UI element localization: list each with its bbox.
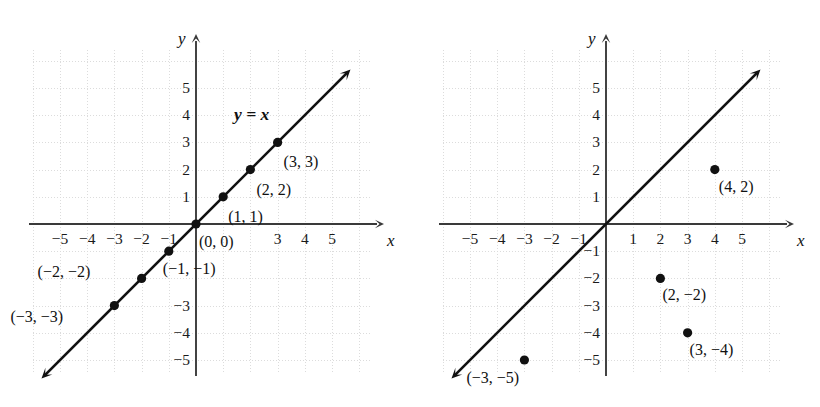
y-axis-tick-label: −5: [174, 352, 191, 368]
y-axis-tick-label: −4: [174, 325, 191, 341]
x-axis-tick-label: −5: [462, 231, 479, 247]
y-axis-tick-label: 4: [182, 107, 190, 123]
x-axis-tick-label: 5: [328, 231, 336, 247]
data-point: [710, 165, 719, 174]
x-axis-tick-label: −2: [133, 231, 150, 247]
x-axis-tick-label: −4: [79, 231, 96, 247]
y-axis-tick-label: 4: [592, 107, 600, 123]
point-annotation: (−3, −5): [466, 370, 519, 386]
axes-and-data-layer: [410, 0, 820, 407]
point-annotation: (3, −4): [690, 342, 734, 358]
point-annotation: (1, 1): [228, 209, 263, 225]
data-point: [191, 219, 200, 228]
x-axis-name: x: [387, 232, 395, 249]
y-axis-tick-label: −3: [584, 298, 601, 314]
x-axis-tick-label: 1: [629, 231, 637, 247]
y-axis-name: y: [588, 30, 596, 47]
x-axis-tick-label: −2: [543, 231, 560, 247]
y-axis-tick-label: 1: [592, 189, 600, 205]
data-point: [273, 138, 282, 147]
x-axis-tick-label: 2: [657, 231, 665, 247]
y-axis-tick-label: −2: [584, 271, 601, 287]
data-point: [164, 247, 173, 256]
figure-root: −5−4−3−2−134554321−3−4−5xy(−3, −3)(−2, −…: [0, 0, 820, 407]
x-axis-name: x: [797, 232, 805, 249]
graph-panel-right: −5−4−3−2−11234554321−1−2−3−4−5xy(4, 2)(2…: [410, 0, 820, 407]
y-axis-tick-label: −5: [584, 352, 601, 368]
y-axis-tick-label: 5: [592, 80, 600, 96]
point-annotation: (0, 0): [199, 234, 234, 250]
point-annotation: (−3, −3): [10, 309, 63, 325]
y-axis-tick-label: 2: [592, 162, 600, 178]
y-axis-name: y: [178, 30, 186, 47]
coordinate-plane-right: −5−4−3−2−11234554321−1−2−3−4−5xy(4, 2)(2…: [410, 0, 820, 407]
coordinate-plane-left: −5−4−3−2−134554321−3−4−5xy(−3, −3)(−2, −…: [0, 0, 410, 407]
point-annotation: (2, 2): [256, 182, 291, 198]
data-point: [137, 274, 146, 283]
x-axis-tick-label: −3: [516, 231, 533, 247]
y-axis-tick-label: 5: [182, 80, 190, 96]
y-axis-tick-label: 3: [182, 135, 190, 151]
graph-panel-left: −5−4−3−2−134554321−3−4−5xy(−3, −3)(−2, −…: [0, 0, 410, 407]
point-annotation: (4, 2): [719, 179, 754, 195]
data-point: [110, 301, 119, 310]
x-axis-tick-label: 4: [711, 231, 719, 247]
data-point: [683, 328, 692, 337]
point-annotation: (2, −2): [662, 287, 706, 303]
y-axis-tick-label: 3: [592, 135, 600, 151]
axes-and-data-layer: [0, 0, 410, 407]
y-axis-tick-label: −1: [584, 243, 601, 259]
y-axis-tick-label: −3: [174, 298, 191, 314]
data-point: [246, 165, 255, 174]
data-point: [520, 355, 529, 364]
point-annotation: (−2, −2): [38, 264, 91, 280]
y-axis-tick-label: −4: [584, 325, 601, 341]
equation-label: y = x: [234, 106, 269, 124]
y-axis-tick-label: 1: [182, 189, 190, 205]
data-point: [656, 274, 665, 283]
x-axis-tick-label: 5: [738, 231, 746, 247]
data-point: [219, 192, 228, 201]
point-annotation: (3, 3): [284, 154, 319, 170]
x-axis-tick-label: −1: [161, 231, 178, 247]
y-axis-tick-label: 2: [182, 162, 190, 178]
x-axis-tick-label: −3: [106, 231, 123, 247]
point-annotation: (−1, −1): [163, 261, 216, 277]
x-axis-tick-label: −4: [489, 231, 506, 247]
x-axis-tick-label: 3: [274, 231, 282, 247]
x-axis-tick-label: −5: [52, 231, 69, 247]
x-axis-tick-label: 3: [684, 231, 692, 247]
x-axis-tick-label: 4: [301, 231, 309, 247]
